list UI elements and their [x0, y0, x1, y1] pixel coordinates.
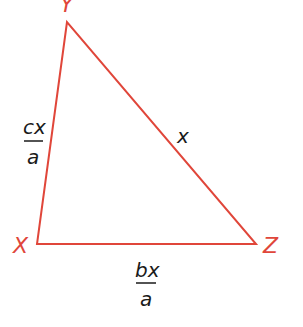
side-xy-numerator: cx: [23, 115, 46, 139]
triangle-xyz: [37, 22, 256, 244]
side-xz-denominator: a: [140, 287, 152, 311]
side-yz-label: x: [176, 124, 189, 148]
triangle-figure: Y X Z cx a x bx a: [0, 0, 303, 327]
vertex-label-y: Y: [60, 0, 75, 17]
vertex-label-z: Z: [262, 233, 279, 258]
side-xy-denominator: a: [27, 145, 39, 169]
side-xz-numerator: bx: [135, 258, 160, 282]
triangle-diagram: Y X Z cx a x bx a: [0, 0, 303, 327]
vertex-label-x: X: [12, 233, 29, 258]
